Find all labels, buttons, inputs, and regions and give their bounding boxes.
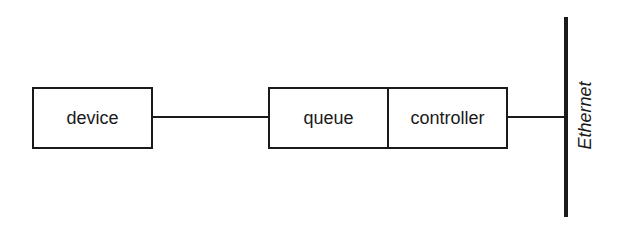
controller-to-ethernet-connector <box>507 116 566 118</box>
device-box: device <box>32 87 153 149</box>
controller-label: controller <box>410 108 484 129</box>
ethernet-bus-line <box>564 17 568 217</box>
device-label: device <box>66 108 118 129</box>
queue-box: queue <box>268 87 389 149</box>
ethernet-label: Ethernet <box>575 76 596 156</box>
queue-label: queue <box>303 108 353 129</box>
controller-box: controller <box>387 87 508 149</box>
device-to-queue-connector <box>152 116 269 118</box>
